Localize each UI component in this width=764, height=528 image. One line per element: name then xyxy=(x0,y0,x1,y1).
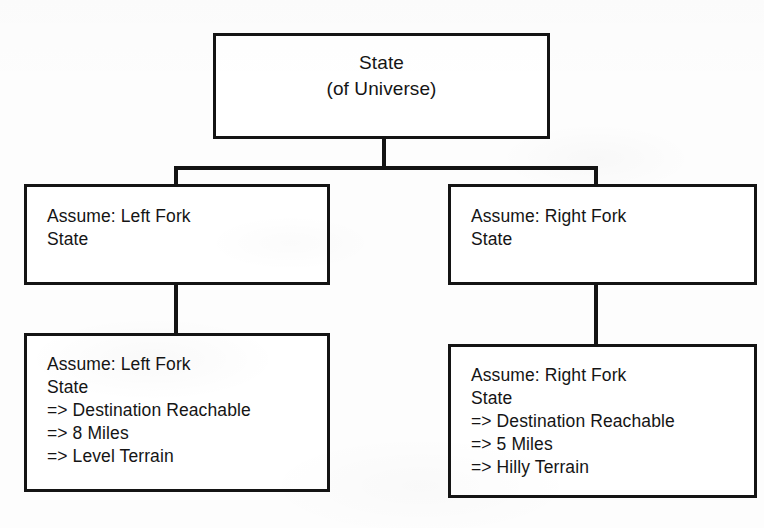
node-right-result-line-1: Assume: Right Fork xyxy=(471,364,754,387)
node-right-result-line-5: => Hilly Terrain xyxy=(471,456,754,479)
diagram-canvas: State (of Universe) Assume: Left Fork St… xyxy=(0,0,764,528)
node-assume-left-fork: Assume: Left Fork State xyxy=(24,184,330,285)
node-left-result-line-3: => Destination Reachable xyxy=(47,399,327,422)
node-right-result-line-3: => Destination Reachable xyxy=(471,410,754,433)
node-left-assume-line-1: Assume: Left Fork xyxy=(47,205,327,228)
node-right-assume-line-2: State xyxy=(471,228,754,251)
node-left-assume-line-2: State xyxy=(47,228,327,251)
node-left-fork-result: Assume: Left Fork State => Destination R… xyxy=(24,333,330,492)
connector-fork-bus xyxy=(174,166,598,170)
node-left-result-line-2: State xyxy=(47,376,327,399)
node-left-result-line-5: => Level Terrain xyxy=(47,445,327,468)
node-root-text-block: State (of Universe) xyxy=(216,50,547,102)
node-right-result-line-2: State xyxy=(471,387,754,410)
node-left-result-line-4: => 8 Miles xyxy=(47,422,327,445)
node-right-result-line-4: => 5 Miles xyxy=(471,433,754,456)
node-left-result-text-block: Assume: Left Fork State => Destination R… xyxy=(27,353,327,468)
connector-right-assume-to-right-result xyxy=(594,282,598,347)
node-left-result-line-1: Assume: Left Fork xyxy=(47,353,327,376)
connector-left-assume-to-left-result xyxy=(174,282,178,336)
node-right-assume-line-1: Assume: Right Fork xyxy=(471,205,754,228)
node-right-result-text-block: Assume: Right Fork State => Destination … xyxy=(451,364,754,479)
connector-root-stem xyxy=(382,136,386,169)
node-right-fork-result: Assume: Right Fork State => Destination … xyxy=(448,344,757,498)
node-root-line-1: State xyxy=(216,50,547,76)
node-right-assume-text-block: Assume: Right Fork State xyxy=(451,205,754,251)
node-root-line-2: (of Universe) xyxy=(216,76,547,102)
node-state-of-universe: State (of Universe) xyxy=(213,33,550,139)
node-assume-right-fork: Assume: Right Fork State xyxy=(448,184,757,285)
node-left-assume-text-block: Assume: Left Fork State xyxy=(27,205,327,251)
